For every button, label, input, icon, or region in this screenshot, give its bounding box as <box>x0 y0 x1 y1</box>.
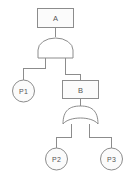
node-b[interactable]: B <box>63 81 99 99</box>
edge-and-gate-to-b <box>66 58 81 80</box>
edge-and-gate-to-p1 <box>24 58 46 80</box>
node-a[interactable]: A <box>38 9 74 28</box>
node-p1-label: P1 <box>19 88 28 95</box>
and-gate-shape <box>38 38 73 58</box>
edge-or-gate-to-p2 <box>57 124 72 148</box>
or-gate[interactable] <box>63 106 98 124</box>
node-a-label: A <box>53 14 58 23</box>
node-p3-label: P3 <box>107 156 116 163</box>
node-p2-label: P2 <box>52 156 61 163</box>
node-p3[interactable]: P3 <box>101 148 123 170</box>
and-gate[interactable] <box>38 38 73 58</box>
fault-tree-diagram: A B P1 P2 P3 <box>0 0 134 178</box>
edge-or-gate-to-p3 <box>90 124 112 148</box>
node-p1[interactable]: P1 <box>13 80 35 102</box>
or-gate-shape <box>63 106 98 124</box>
node-b-label: B <box>78 86 83 95</box>
node-p2[interactable]: P2 <box>46 148 68 170</box>
